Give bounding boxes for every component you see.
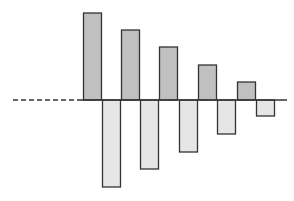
positive-bar-3 [160, 47, 178, 100]
negative-bar-1 [103, 100, 121, 187]
positive-bar-4 [199, 65, 217, 100]
negative-bars [103, 100, 275, 187]
negative-bar-4 [218, 100, 236, 134]
positive-bar-2 [122, 30, 140, 100]
alternating-bar-chart [0, 0, 294, 201]
positive-bars [84, 13, 256, 100]
negative-bar-3 [180, 100, 198, 152]
positive-bar-5 [238, 82, 256, 100]
negative-bar-5 [257, 100, 275, 116]
negative-bar-2 [141, 100, 159, 169]
positive-bar-1 [84, 13, 102, 100]
